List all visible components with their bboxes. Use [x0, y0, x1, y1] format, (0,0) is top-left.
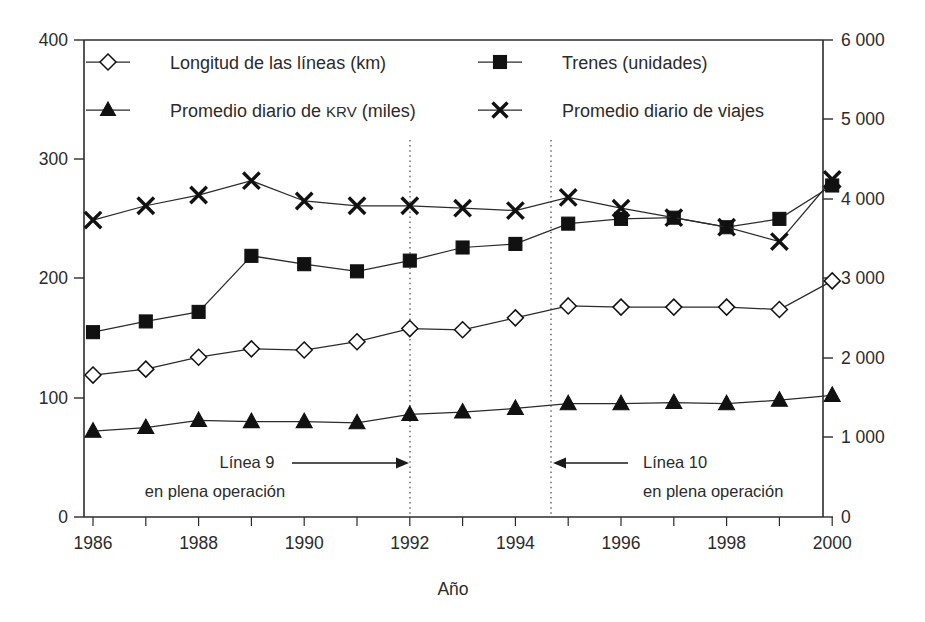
left-tick-label-200: 200 [39, 268, 68, 288]
x-axis-labels: 19861988199019921994199619982000 [74, 533, 852, 553]
x-axis-label-1990: 1990 [285, 533, 324, 553]
annotation-linea-9: Línea 9 en plena operación [145, 453, 409, 500]
series-2 [85, 387, 840, 437]
datapoint-1-1995 [562, 217, 575, 230]
series-layer [85, 171, 841, 437]
left-tick-label-300: 300 [39, 149, 68, 169]
datapoint-2-1994 [507, 400, 523, 415]
right-tick-label-0: 0 [841, 507, 851, 527]
datapoint-3-1989 [243, 173, 259, 189]
series-3 [85, 171, 841, 249]
legend-entry-1[interactable]: Trenes (unidades) [478, 53, 707, 73]
datapoint-2-1996 [613, 395, 629, 410]
datapoint-0-1991 [349, 334, 365, 350]
annotation-linea-10-line2: en plena operación [643, 482, 783, 500]
datapoint-0-1989 [243, 341, 259, 357]
x-axis-label-1986: 1986 [74, 533, 113, 553]
datapoint-1-1988 [192, 305, 205, 318]
right-tick-label-6000: 6 000 [841, 30, 885, 50]
legend-marker-0 [100, 54, 116, 70]
datapoint-3-1987 [138, 198, 154, 214]
datapoint-1-1986 [87, 326, 100, 339]
datapoint-2-1993 [455, 404, 471, 419]
legend-label-0: Longitud de las líneas (km) [170, 53, 386, 73]
datapoint-3-1995 [560, 189, 576, 205]
annotation-linea-10-line1: Línea 10 [643, 453, 707, 471]
datapoint-3-1999 [771, 233, 787, 249]
datapoint-1-1989 [245, 249, 258, 262]
chart-legend: Longitud de las líneas (km)Trenes (unida… [86, 53, 764, 121]
datapoint-2-1997 [666, 394, 682, 409]
annotation-linea-10-arrow-head [553, 458, 566, 469]
annotation-linea-10: Línea 10 en plena operación [553, 453, 783, 500]
x-axis-ticks [93, 517, 832, 526]
annotation-linea-9-line1: Línea 9 [219, 453, 274, 471]
left-tick-label-0: 0 [58, 507, 68, 527]
legend-label-1: Trenes (unidades) [562, 53, 707, 73]
right-tick-label-3000: 3 000 [841, 268, 885, 288]
datapoint-1-1999 [773, 212, 786, 225]
legend-entry-3[interactable]: Promedio diario de viajes [478, 101, 764, 121]
datapoint-0-1990 [296, 342, 312, 358]
x-axis-label-1998: 1998 [707, 533, 746, 553]
datapoint-0-2000 [824, 273, 840, 289]
right-tick-label-5000: 5 000 [841, 109, 885, 129]
datapoint-3-1986 [85, 212, 101, 228]
datapoint-0-1992 [402, 321, 418, 337]
right-tick-label-2000: 2 000 [841, 348, 885, 368]
left-tick-label-100: 100 [39, 388, 68, 408]
series-0 [85, 273, 840, 383]
left-axis-ticks: 400 300 200 100 0 [39, 30, 84, 527]
datapoint-0-1995 [560, 298, 576, 314]
datapoint-1-1987 [139, 315, 152, 328]
x-axis-label-1994: 1994 [496, 533, 535, 553]
legend-label-3: Promedio diario de viajes [562, 101, 764, 121]
datapoint-2-1998 [719, 395, 735, 410]
chart-canvas: 400 300 200 100 0 6 000 5 000 4 000 3 00… [0, 0, 925, 622]
right-tick-label-4000: 4 000 [841, 189, 885, 209]
datapoint-0-1993 [455, 322, 471, 338]
datapoint-0-1997 [666, 299, 682, 315]
datapoint-3-1988 [190, 187, 206, 203]
datapoint-0-1986 [85, 367, 101, 383]
x-axis-title: Año [437, 579, 468, 599]
datapoint-1-1994 [509, 237, 522, 250]
legend-entry-2[interactable]: Promedio diario de KRV (miles) [86, 101, 416, 121]
annotation-linea-9-arrow-head [396, 458, 409, 469]
datapoint-0-1996 [613, 299, 629, 315]
x-axis-label-1996: 1996 [602, 533, 641, 553]
datapoint-2-1992 [402, 406, 418, 421]
x-axis-label-1988: 1988 [179, 533, 218, 553]
x-axis-label-2000: 2000 [813, 533, 852, 553]
annotation-linea-9-line2: en plena operación [145, 482, 285, 500]
datapoint-2-1986 [85, 423, 101, 438]
legend-label-2: Promedio diario de KRV (miles) [170, 101, 416, 121]
datapoint-2-2000 [824, 387, 840, 402]
line-chart: 400 300 200 100 0 6 000 5 000 4 000 3 00… [0, 0, 925, 622]
datapoint-1-1992 [403, 254, 416, 267]
legend-marker-1 [494, 56, 507, 69]
datapoint-1-1990 [298, 258, 311, 271]
datapoint-0-1999 [771, 302, 787, 318]
datapoint-2-1989 [243, 413, 259, 428]
datapoint-2-1995 [560, 395, 576, 410]
datapoint-2-1990 [296, 413, 312, 428]
legend-marker-2 [101, 102, 116, 116]
legend-entry-0[interactable]: Longitud de las líneas (km) [86, 53, 386, 73]
datapoint-2-1988 [191, 412, 207, 427]
right-tick-label-1000: 1 000 [841, 427, 885, 447]
datapoint-2-1999 [771, 392, 787, 407]
datapoint-0-1998 [719, 299, 735, 315]
datapoint-1-1993 [456, 241, 469, 254]
datapoint-0-1988 [191, 349, 207, 365]
datapoint-0-1994 [507, 310, 523, 326]
x-axis-label-1992: 1992 [390, 533, 429, 553]
datapoint-0-1987 [138, 361, 154, 377]
datapoint-1-1991 [351, 265, 364, 278]
left-tick-label-400: 400 [39, 30, 68, 50]
